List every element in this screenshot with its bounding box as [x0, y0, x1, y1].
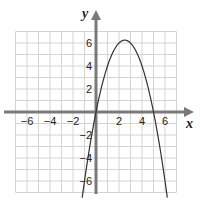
parabola-graph: −6−4−2246642−2−4−6 x y [0, 0, 201, 202]
y-tick-label: 4 [86, 60, 92, 72]
x-tick-label: −6 [21, 115, 34, 127]
y-tick-label: 2 [86, 83, 92, 95]
y-tick-label: 6 [86, 37, 92, 49]
x-tick-label: −4 [44, 115, 57, 127]
y-tick-label: −4 [79, 152, 92, 164]
x-tick-label: 4 [139, 115, 145, 127]
x-tick-label: −2 [67, 115, 80, 127]
y-tick-label: −2 [79, 129, 92, 141]
x-axis-label: x [185, 116, 193, 131]
y-axis-label: y [80, 6, 89, 21]
y-tick-label: −6 [79, 175, 92, 187]
x-tick-label: 2 [116, 115, 122, 127]
x-tick-label: 6 [162, 115, 168, 127]
